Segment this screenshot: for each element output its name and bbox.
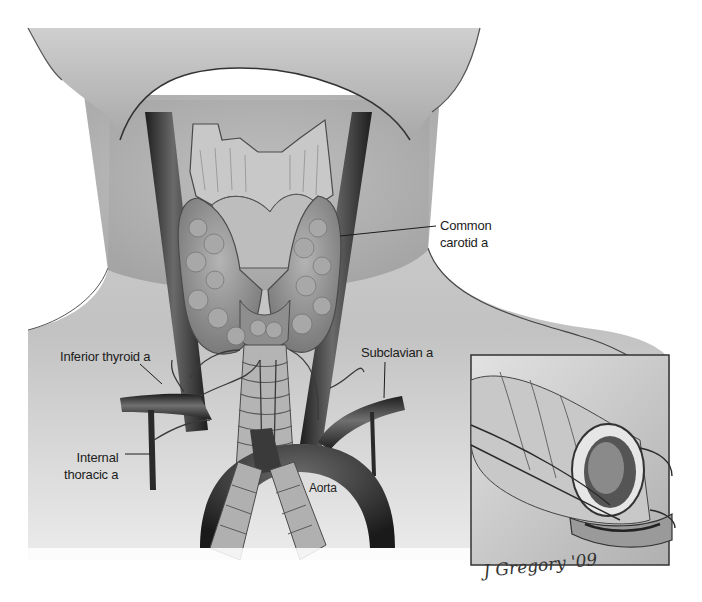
- label-line: carotid a: [440, 234, 492, 251]
- anatomy-figure: Common carotid a Inferior thyroid a Subc…: [0, 0, 702, 602]
- label-common-carotid: Common carotid a: [440, 217, 492, 251]
- label-line: Common: [440, 217, 492, 234]
- label-line: Internal: [64, 449, 118, 466]
- label-internal-thoracic: Internal thoracic a: [64, 449, 118, 483]
- label-subclavian: Subclavian a: [361, 344, 433, 361]
- label-inferior-thyroid: Inferior thyroid a: [60, 348, 150, 365]
- inset-trachea-crosssection: [471, 355, 675, 565]
- neck-illustration: [0, 0, 702, 602]
- label-aorta: Aorta: [309, 480, 337, 497]
- label-line: thoracic a: [64, 466, 118, 483]
